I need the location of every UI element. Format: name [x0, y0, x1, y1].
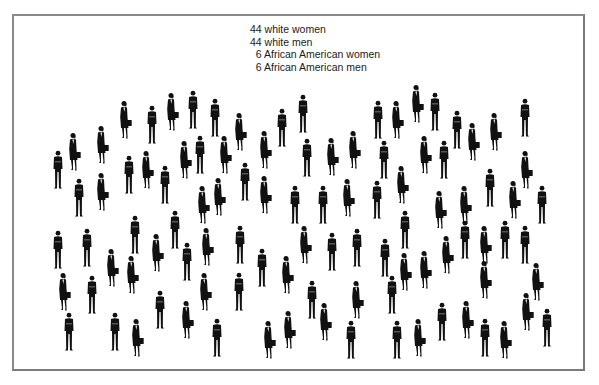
man-figure: [344, 320, 358, 360]
man-figure-icon: [288, 185, 302, 225]
woman-figure: [233, 112, 247, 152]
man-figure-icon: [478, 318, 492, 358]
woman-figure-icon: [325, 137, 339, 177]
man-figure: [128, 215, 142, 255]
woman-figure: [347, 130, 361, 170]
man-figure: [238, 162, 252, 202]
woman-figure-icon: [418, 135, 432, 175]
woman-figure: [95, 172, 109, 212]
woman-figure: [67, 132, 81, 172]
woman-figure-icon: [458, 185, 472, 225]
legend-line-african-american-men: 6 African American men: [250, 61, 380, 74]
woman-figure-icon: [95, 125, 109, 165]
man-figure-icon: [540, 308, 554, 348]
woman-figure: [466, 122, 480, 162]
woman-figure-icon: [478, 225, 492, 265]
woman-figure: [280, 255, 294, 295]
man-figure: [483, 168, 497, 208]
man-figure-icon: [128, 215, 142, 255]
man-figure-icon: [300, 138, 314, 178]
woman-figure: [140, 150, 154, 190]
woman-figure-icon: [390, 100, 404, 140]
woman-figure: [325, 137, 339, 177]
man-figure: [437, 140, 451, 180]
man-figure-icon: [255, 248, 269, 288]
man-figure: [305, 280, 319, 320]
woman-figure-icon: [395, 165, 409, 205]
man-figure: [518, 225, 532, 265]
man-figure-icon: [233, 225, 247, 265]
woman-figure: [418, 135, 432, 175]
man-figure-icon: [535, 185, 549, 225]
woman-figure-icon: [233, 112, 247, 152]
man-figure-icon: [316, 185, 330, 225]
woman-figure-icon: [198, 272, 212, 312]
woman-figure: [178, 140, 192, 180]
woman-figure-icon: [298, 225, 312, 265]
woman-figure: [196, 185, 210, 225]
woman-figure: [130, 318, 144, 358]
man-figure: [316, 185, 330, 225]
woman-figure-icon: [118, 100, 132, 140]
woman-figure-icon: [105, 248, 119, 288]
woman-figure: [212, 177, 226, 217]
man-figure-icon: [344, 320, 358, 360]
woman-figure: [200, 227, 214, 267]
man-figure: [435, 302, 449, 342]
man-figure: [518, 98, 532, 138]
woman-figure: [150, 233, 164, 273]
man-figure: [232, 272, 246, 312]
woman-figure: [460, 300, 474, 340]
woman-figure: [433, 190, 447, 230]
man-figure-icon: [275, 108, 289, 148]
man-figure: [80, 228, 94, 268]
woman-figure: [390, 100, 404, 140]
woman-figure-icon: [95, 172, 109, 212]
woman-figure: [458, 185, 472, 225]
man-figure-icon: [377, 140, 391, 180]
man-figure-icon: [371, 100, 385, 140]
man-figure-icon: [51, 150, 65, 190]
man-figure: [325, 232, 339, 272]
woman-figure-icon: [196, 185, 210, 225]
woman-figure: [478, 260, 492, 300]
woman-figure-icon: [347, 130, 361, 170]
man-figure: [428, 92, 442, 132]
man-figure: [398, 210, 412, 250]
woman-figure: [412, 318, 426, 358]
woman-figure-icon: [262, 320, 276, 360]
woman-figure: [198, 272, 212, 312]
woman-figure: [418, 250, 432, 290]
man-figure: [62, 312, 76, 352]
woman-figure: [95, 125, 109, 165]
man-figure-icon: [72, 178, 86, 218]
man-figure: [51, 230, 65, 270]
woman-figure: [298, 225, 312, 265]
man-figure: [122, 155, 136, 195]
woman-figure-icon: [498, 320, 512, 360]
man-figure-icon: [208, 98, 222, 138]
woman-figure: [488, 112, 502, 152]
woman-figure: [350, 280, 364, 320]
woman-figure-icon: [350, 280, 364, 320]
man-figure: [275, 108, 289, 148]
woman-figure-icon: [218, 135, 232, 175]
man-figure-icon: [108, 312, 122, 352]
man-figure: [300, 138, 314, 178]
man-figure-icon: [62, 312, 76, 352]
man-figure-icon: [238, 162, 252, 202]
man-figure-icon: [385, 275, 399, 315]
man-figure: [371, 100, 385, 140]
man-figure: [478, 318, 492, 358]
man-figure: [193, 135, 207, 175]
woman-figure: [218, 135, 232, 175]
woman-figure: [57, 272, 71, 312]
man-figure: [85, 275, 99, 315]
man-figure-icon: [145, 105, 159, 145]
man-figure-icon: [435, 302, 449, 342]
man-figure-icon: [232, 272, 246, 312]
woman-figure: [440, 235, 454, 275]
man-figure-icon: [390, 320, 404, 360]
woman-figure: [520, 292, 534, 332]
man-figure-icon: [153, 290, 167, 330]
